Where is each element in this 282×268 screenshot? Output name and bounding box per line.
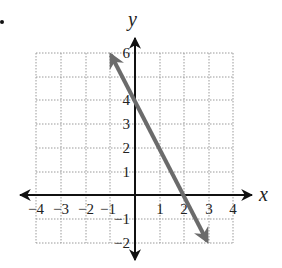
x-tick: 4	[229, 201, 237, 217]
x-tick: −4	[28, 201, 44, 217]
y-axis-label: y	[126, 8, 137, 31]
y-tick: 6	[123, 45, 131, 61]
x-tick: 3	[205, 201, 213, 217]
x-axis-label: x	[258, 183, 268, 205]
line-graph: x y −4 −3 −2 −1 1 2 3 4 6 4 3 2 1 −1 −2	[0, 0, 282, 268]
y-tick: 2	[123, 140, 131, 156]
x-tick: 1	[156, 201, 164, 217]
x-tick-labels: −4 −3 −2 −1 1 2 3 4	[28, 201, 237, 217]
x-tick: −2	[78, 201, 94, 217]
y-tick: −1	[114, 211, 130, 227]
y-tick: 3	[123, 116, 131, 132]
y-tick: 1	[123, 164, 131, 180]
bullet-dot	[0, 20, 4, 24]
y-tick: −2	[114, 235, 130, 251]
x-tick: −3	[53, 201, 69, 217]
